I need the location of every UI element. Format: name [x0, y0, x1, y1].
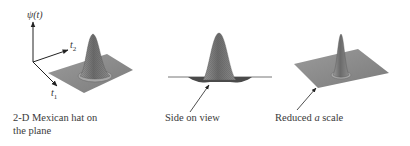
reduced-scale-pointer-arrow — [297, 88, 316, 110]
psi-axis-label: ψ(t) — [27, 9, 43, 21]
caption-mexican-hat-plane: 2-D Mexican hat on the plane — [13, 111, 97, 137]
panel-side-view — [168, 33, 272, 112]
caption-text: Reduced — [275, 112, 314, 123]
caption-side-view: Side on view — [165, 111, 220, 124]
caption-text: scale — [320, 112, 344, 123]
caption-line: 2-D Mexican hat on — [13, 111, 97, 124]
panel-mexican-hat-plane: ψ(t) t2 t1 — [27, 9, 133, 101]
caption-line: the plane — [13, 124, 97, 137]
t2-axis-arrow — [33, 50, 68, 62]
caption-line: Side on view — [165, 111, 220, 124]
side-view-pointer-arrow — [190, 85, 209, 112]
t1-axis-label: t1 — [51, 87, 58, 101]
panel-reduced-scale — [294, 34, 389, 110]
t2-axis-label: t2 — [70, 39, 77, 53]
caption-reduced-scale: Reduced a scale — [275, 111, 343, 124]
